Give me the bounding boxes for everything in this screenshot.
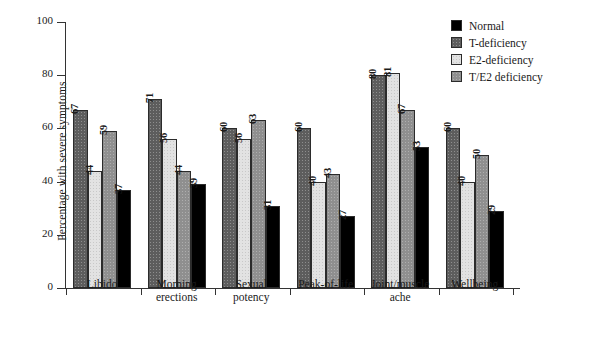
bar: 53 xyxy=(415,147,430,288)
bar-value-label: 67 xyxy=(69,104,80,114)
bar: 31 xyxy=(266,206,281,288)
y-axis-tick-label: 100 xyxy=(37,14,54,26)
bar: 44 xyxy=(177,171,192,288)
bar: 43 xyxy=(326,174,341,288)
bar-value-label: 44 xyxy=(84,165,95,175)
y-axis-tick-label: 60 xyxy=(42,120,53,132)
bar: 60 xyxy=(446,128,461,288)
bar-value-label: 29 xyxy=(486,205,497,215)
legend-label: E2-deficiency xyxy=(469,54,534,66)
y-axis-tick-label: 80 xyxy=(42,67,53,79)
bar: 80 xyxy=(371,75,386,288)
bar-group: 67445937 xyxy=(73,22,131,288)
chart-legend: NormalT-deficiencyE2-deficiencyT/E2 defi… xyxy=(451,17,543,85)
bar: 56 xyxy=(237,139,252,288)
bar-group: 71564439 xyxy=(148,22,206,288)
legend-swatch xyxy=(451,37,462,48)
bar: 37 xyxy=(117,190,132,288)
bar-value-label: 60 xyxy=(218,122,229,132)
legend-label: T-deficiency xyxy=(469,37,527,49)
bar-value-label: 43 xyxy=(322,168,333,178)
y-axis-tick: 100 xyxy=(57,22,65,23)
category-label-line: ache xyxy=(340,291,460,304)
bar-value-label: 80 xyxy=(367,69,378,79)
legend-swatch xyxy=(451,54,462,65)
x-axis-category-label: Wellbeing xyxy=(415,278,535,291)
bar-value-label: 39 xyxy=(188,178,199,188)
category-label-line: Wellbeing xyxy=(451,278,498,290)
legend-label: T/E2 deficiency xyxy=(469,71,543,83)
legend-item: T/E2 deficiency xyxy=(451,68,543,85)
legend-swatch xyxy=(451,20,462,31)
y-axis-tick: 40 xyxy=(57,182,65,183)
y-axis-tick: 60 xyxy=(57,128,65,129)
bar-value-label: 81 xyxy=(382,66,393,76)
bar-value-label: 37 xyxy=(113,184,124,194)
bar: 56 xyxy=(162,139,177,288)
bar: 40 xyxy=(311,182,326,288)
bar: 44 xyxy=(88,171,103,288)
bar-value-label: 40 xyxy=(456,176,467,186)
bar: 39 xyxy=(191,184,206,288)
bar-value-label: 27 xyxy=(337,210,348,220)
bar: 60 xyxy=(222,128,237,288)
bar-value-label: 53 xyxy=(411,141,422,151)
legend-item: E2-deficiency xyxy=(451,51,543,68)
bar: 67 xyxy=(73,110,88,288)
bar-value-label: 71 xyxy=(144,93,155,103)
bar-value-label: 56 xyxy=(158,133,169,143)
category-label-line: Sexual xyxy=(236,278,267,290)
bar: 29 xyxy=(489,211,504,288)
bar-value-label: 60 xyxy=(293,122,304,132)
bar: 60 xyxy=(297,128,312,288)
bar-value-label: 56 xyxy=(233,133,244,143)
legend-item: T-deficiency xyxy=(451,34,543,51)
bar-value-label: 63 xyxy=(247,114,258,124)
bar-chart-figure: Percentage with severe symptoms 02040608… xyxy=(0,0,594,340)
bar-value-label: 60 xyxy=(442,122,453,132)
legend-label: Normal xyxy=(469,20,504,32)
y-axis-tick-label: 20 xyxy=(42,227,53,239)
bar-value-label: 59 xyxy=(98,125,109,135)
bar-value-label: 44 xyxy=(173,165,184,175)
bar-value-label: 40 xyxy=(307,176,318,186)
bar-group: 80816753 xyxy=(371,22,429,288)
bar: 67 xyxy=(400,110,415,288)
y-axis-line xyxy=(65,22,66,289)
bar: 59 xyxy=(102,131,117,288)
y-axis-tick: 20 xyxy=(57,235,65,236)
bar: 40 xyxy=(460,182,475,288)
legend-swatch xyxy=(451,71,462,82)
plot-area: 020406080100 674459377156443960566331604… xyxy=(65,22,514,288)
bar-value-label: 50 xyxy=(471,149,482,159)
bar: 71 xyxy=(148,99,163,288)
bar-group: 60566331 xyxy=(222,22,280,288)
category-label-line: potency xyxy=(191,291,311,304)
bar-group: 60404327 xyxy=(297,22,355,288)
bar: 50 xyxy=(475,155,490,288)
y-axis-tick: 80 xyxy=(57,75,65,76)
bar-value-label: 31 xyxy=(262,199,273,209)
legend-item: Normal xyxy=(451,17,543,34)
y-axis-tick-label: 40 xyxy=(42,174,53,186)
bar-value-label: 67 xyxy=(396,104,407,114)
category-label-line: Libido xyxy=(87,278,118,290)
